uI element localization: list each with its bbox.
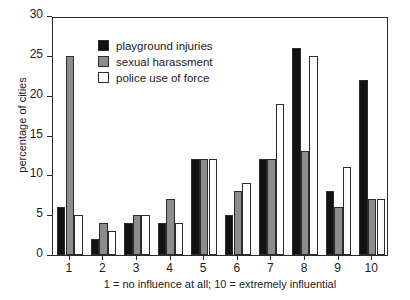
y-tick-label: 20 (30, 88, 43, 100)
bar (124, 223, 133, 255)
bar (133, 215, 142, 255)
bar-chart: percentage of cities 051015202530 123456… (0, 0, 410, 300)
x-tick-mark (102, 256, 103, 260)
bar (99, 223, 108, 255)
bar (91, 239, 100, 255)
legend: playground injuriessexual harassmentpoli… (98, 38, 213, 86)
bar (74, 215, 83, 255)
bar (191, 159, 200, 255)
y-tick-label: 25 (30, 48, 43, 60)
y-tick-label: 10 (30, 167, 43, 179)
bar (343, 167, 352, 255)
x-tick-mark (304, 256, 305, 260)
bar (175, 223, 184, 255)
y-tick-mark (47, 136, 52, 137)
bar (66, 56, 75, 255)
bar (301, 151, 310, 255)
bar (242, 183, 251, 255)
x-tick-label: 1 (55, 262, 83, 275)
bar (276, 104, 285, 255)
y-tick-mark (47, 56, 52, 57)
x-tick-mark (69, 256, 70, 260)
legend-label: police use of force (116, 72, 209, 84)
legend-item: sexual harassment (98, 54, 213, 69)
y-tick-label: 30 (30, 8, 43, 20)
bar (200, 159, 209, 255)
legend-swatch-icon (98, 40, 109, 51)
y-axis-title: percentage of cities (16, 35, 28, 215)
x-tick-label: 6 (223, 262, 251, 275)
x-tick-mark (371, 256, 372, 260)
bar (158, 223, 167, 255)
bar (368, 199, 377, 255)
x-tick-mark (237, 256, 238, 260)
x-tick-mark (170, 256, 171, 260)
bar (166, 199, 175, 255)
y-tick-mark (47, 255, 52, 256)
x-tick-label: 4 (156, 262, 184, 275)
x-tick-label: 2 (88, 262, 116, 275)
legend-swatch-icon (98, 72, 109, 83)
legend-label: playground injuries (116, 40, 213, 52)
y-tick-mark (47, 215, 52, 216)
bar (309, 56, 318, 255)
bar (108, 231, 117, 255)
x-tick-label: 10 (357, 262, 385, 275)
y-tick-mark (47, 96, 52, 97)
x-tick-label: 7 (256, 262, 284, 275)
bar (234, 191, 243, 255)
y-tick-mark (47, 16, 52, 17)
bar (359, 80, 368, 255)
bar (377, 199, 386, 255)
bar (225, 215, 234, 255)
legend-item: police use of force (98, 70, 213, 85)
x-tick-label: 3 (122, 262, 150, 275)
x-tick-mark (270, 256, 271, 260)
bar (57, 207, 66, 255)
y-tick-mark (47, 175, 52, 176)
x-axis-title: 1 = no influence at all; 10 = extremely … (52, 278, 388, 290)
y-tick-label: 5 (36, 207, 43, 219)
legend-item: playground injuries (98, 38, 213, 53)
x-tick-mark (338, 256, 339, 260)
x-tick-label: 8 (290, 262, 318, 275)
bar (292, 48, 301, 255)
bar (141, 215, 150, 255)
x-tick-label: 5 (189, 262, 217, 275)
bar (259, 159, 268, 255)
bar (326, 191, 335, 255)
x-tick-mark (136, 256, 137, 260)
x-tick-label: 9 (324, 262, 352, 275)
bar (267, 159, 276, 255)
y-tick-label: 0 (36, 247, 43, 259)
y-tick-label: 15 (30, 128, 43, 140)
bar (334, 207, 343, 255)
legend-label: sexual harassment (116, 56, 213, 68)
legend-swatch-icon (98, 56, 109, 67)
bar (209, 159, 218, 255)
x-tick-mark (203, 256, 204, 260)
